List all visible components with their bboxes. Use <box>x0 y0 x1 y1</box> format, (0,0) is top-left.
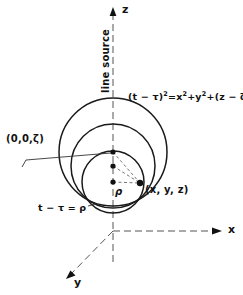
source-point-label: (0,0,ζ) <box>6 134 44 144</box>
y-axis-label: y <box>74 277 81 288</box>
radius-line-inner <box>113 182 140 183</box>
x-axis-label: x <box>228 224 235 235</box>
radius-line-outer <box>113 152 140 183</box>
radius-lines <box>113 152 140 183</box>
source-point-middle-dot <box>110 163 115 168</box>
y-axis-line <box>71 231 113 274</box>
field-point-label: (x, y, z) <box>145 185 189 195</box>
sphere-eq-term3-base: (z − ζ) <box>215 91 243 102</box>
source-point-upper-dot <box>110 149 115 154</box>
source-point-lower-dot <box>110 179 115 184</box>
sphere-equation: (t − τ)2=x2+y2+(z − ζ)2 <box>128 91 243 102</box>
x-axis-arrowhead <box>212 227 222 234</box>
z-axis-label: z <box>122 4 129 15</box>
diagram-canvas <box>0 0 243 295</box>
sphere-eq-equals: = <box>168 91 176 102</box>
sphere-eq-plus-2: + <box>206 91 214 102</box>
line-source-label: line source <box>101 29 111 93</box>
rho-label: ρ <box>115 187 122 197</box>
sphere-eq-lhs-base: (t − τ) <box>128 91 163 102</box>
z-axis-arrowhead <box>110 7 117 16</box>
radius-line-middle <box>113 166 140 183</box>
retarded-time-equation: t − τ = ρ <box>38 203 86 213</box>
figure-container: z x y line source (0,0,ζ) (x, y, z) ρ t … <box>0 0 243 295</box>
field-point-dot <box>137 180 143 186</box>
axis-group <box>66 7 222 279</box>
